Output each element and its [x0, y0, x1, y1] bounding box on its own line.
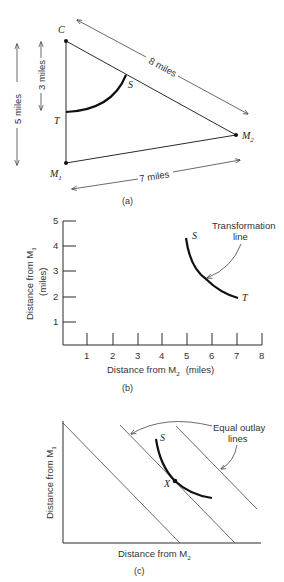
dim-7-miles-arrow-left — [72, 179, 138, 189]
caption-c: (c) — [134, 566, 145, 576]
annotation-arrow-left — [131, 422, 212, 435]
x-tick-6: 6 — [209, 350, 214, 361]
curve-label-s-c: S — [160, 432, 165, 443]
panel-b-chart: 1 2 3 4 5 1 2 3 4 5 6 7 8 Distance from … — [24, 215, 276, 393]
transformation-curve-c — [156, 439, 212, 498]
arc-t-s — [66, 75, 126, 112]
curve-label-t: T — [242, 292, 249, 303]
x-tick-5: 5 — [184, 350, 189, 361]
panel-a-triangle: C S T M1 M2 5 miles 3 miles 8 miles 7 mi… — [12, 20, 254, 206]
annotation-transformation: Transformation — [212, 220, 276, 231]
dim-3-miles-label: 3 miles — [36, 60, 47, 90]
x-tick-4: 4 — [159, 350, 164, 361]
dim-8-miles-label: 8 miles — [147, 55, 179, 79]
dim-8-miles-arrow-left — [77, 20, 146, 57]
y-tick-4: 4 — [53, 240, 58, 251]
annotation-arrow-right — [221, 445, 237, 469]
x-axis-label-c: Distance from M2 — [118, 548, 191, 562]
label-m2: M2 — [241, 130, 254, 144]
label-c: C — [58, 24, 65, 35]
y-tick-1: 1 — [53, 316, 58, 327]
side-m1-m2 — [66, 135, 236, 163]
dim-5-miles-label: 5 miles — [12, 94, 23, 124]
y-axis-unit-label: (miles) — [37, 268, 48, 297]
panel-c-chart: S X Equal outlay lines Distance from M1 … — [44, 421, 266, 576]
y-tick-5: 5 — [53, 215, 58, 226]
dim-7-miles-arrow-right — [173, 160, 240, 172]
point-m1 — [64, 161, 68, 165]
annotation-equal-outlay: Equal outlay — [213, 422, 266, 433]
x-tick-7: 7 — [234, 350, 239, 361]
side-c-m2 — [66, 41, 236, 135]
annotation-line: line — [233, 231, 248, 242]
annotation-arrow — [207, 244, 241, 278]
label-m1: M1 — [49, 168, 62, 182]
caption-a: (a) — [122, 196, 133, 206]
y-axis-label-c: Distance from M1 — [44, 446, 58, 519]
x-ticks: 1 2 3 4 5 6 7 8 — [84, 333, 264, 361]
x-tick-2: 2 — [110, 350, 115, 361]
annotation-lines: lines — [228, 433, 248, 444]
label-t: T — [54, 115, 61, 126]
x-axis-label: Distance from M2(miles) — [107, 364, 214, 378]
point-c — [64, 39, 68, 43]
point-m2 — [234, 133, 238, 137]
x-tick-3: 3 — [135, 350, 140, 361]
caption-b: (b) — [122, 383, 133, 393]
y-ticks: 1 2 3 4 5 — [53, 215, 76, 327]
dim-7-miles-label: 7 miles — [139, 168, 171, 184]
y-tick-3: 3 — [53, 265, 58, 276]
x-tick-1: 1 — [84, 350, 89, 361]
label-x: X — [163, 478, 171, 489]
tangent-point-x — [173, 479, 178, 484]
label-s: S — [128, 79, 133, 90]
y-tick-2: 2 — [53, 291, 58, 302]
x-tick-8: 8 — [259, 350, 264, 361]
curve-label-s: S — [192, 230, 197, 241]
transformation-curve — [186, 238, 238, 298]
y-axis-label: Distance from M1 — [24, 247, 38, 320]
location-diagram-figure: C S T M1 M2 5 miles 3 miles 8 miles 7 mi… — [0, 0, 284, 582]
